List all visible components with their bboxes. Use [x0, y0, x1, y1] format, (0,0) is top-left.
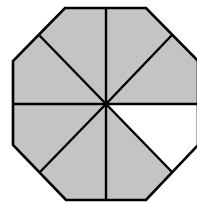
octagon-svg: [0, 0, 197, 203]
octagon-fraction-diagram: [0, 0, 197, 203]
